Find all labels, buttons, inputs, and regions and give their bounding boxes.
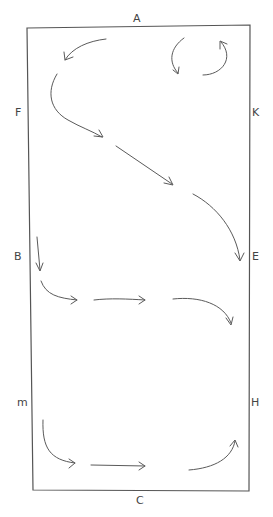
arrowhead-icon — [69, 459, 75, 468]
marker-e: E — [252, 250, 259, 263]
marker-b: B — [14, 250, 22, 263]
marker-k: K — [252, 106, 260, 119]
arena-diagram: A K F B E m H C — [0, 0, 273, 517]
straight-across-b-row — [94, 296, 145, 304]
curve-from-f — [51, 74, 103, 137]
arrowhead-icon — [64, 52, 73, 60]
marker-h: H — [251, 396, 259, 409]
marker-f: F — [15, 106, 21, 119]
marker-c: C — [136, 494, 144, 507]
marker-a: A — [133, 12, 141, 25]
curve-down-b-row — [173, 298, 233, 325]
straight-across-m-row — [91, 462, 145, 470]
curve-toward-left — [64, 39, 106, 60]
diagonal-segment — [116, 146, 173, 185]
circle-left-arc — [172, 38, 184, 74]
curve-from-m — [43, 420, 75, 468]
circle-right-arc — [203, 41, 227, 75]
arena-outline — [27, 25, 250, 491]
curve-to-e — [193, 194, 244, 261]
down-at-b — [36, 237, 43, 271]
arrowhead-icon — [226, 317, 233, 325]
marker-m: m — [17, 396, 28, 409]
curve-from-b — [41, 281, 77, 304]
curve-up-to-h — [189, 440, 238, 470]
